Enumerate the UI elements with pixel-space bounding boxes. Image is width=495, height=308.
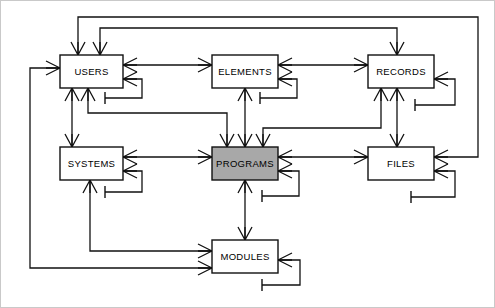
link-users-programs [88,88,227,147]
crowfoot-programs-right-lower [278,164,292,178]
crowfoot-modules-left-upper [198,244,212,258]
crowfoot-systems-bottom [83,180,97,193]
crowfoot-modules-top [238,227,252,240]
crowfoot-modules-right [278,253,292,267]
crowfoot-records-right [434,72,448,86]
crowfoot-systems-top [65,134,79,147]
entity-elements-label: ELEMENTS [218,66,272,77]
crowfoot-records-bottom-left [374,88,388,101]
crowfoot-users-top-left [71,42,85,55]
crowfoot-systems-right-upper [123,150,137,164]
link-records-users [100,28,397,55]
crowfoot-files-left [354,150,368,164]
entity-boxes: USERS ELEMENTS RECORDS SYSTEMS PROGRAMS [60,55,434,273]
crowfoot-files-right-lower [434,164,448,178]
crowfoot-programs-left [198,150,212,164]
entity-programs[interactable]: PROGRAMS [212,147,278,180]
entity-systems[interactable]: SYSTEMS [60,147,123,180]
crowfoot-users-right-lower [123,72,137,86]
diagram-canvas: USERS ELEMENTS RECORDS SYSTEMS PROGRAMS [0,0,495,308]
crowfoot-users-right-upper [123,58,137,72]
crowfoot-users-top-right [93,42,107,55]
entity-users[interactable]: USERS [60,55,123,88]
entity-records[interactable]: RECORDS [368,55,434,88]
entity-files[interactable]: FILES [368,147,434,180]
crowfoot-users-left [46,61,60,75]
crowfoot-records-top [390,42,404,55]
entity-users-label: USERS [74,66,108,77]
entity-relationship-diagram: USERS ELEMENTS RECORDS SYSTEMS PROGRAMS [0,0,495,308]
crowfoot-systems-right-lower [123,164,137,178]
entity-modules[interactable]: MODULES [212,240,278,273]
crowfoot-modules-left-lower [198,261,212,275]
crowfoot-programs-top-middle [238,134,252,147]
entity-modules-label: MODULES [220,251,269,262]
link-systems-modules [90,180,212,251]
entity-elements[interactable]: ELEMENTS [212,55,278,88]
entity-systems-label: SYSTEMS [68,158,116,169]
crowfoot-elements-bottom [238,88,252,101]
crowfoot-records-bottom-right [390,88,404,101]
crowfoot-elements-left [198,58,212,72]
crowfoot-programs-right-upper [278,150,292,164]
entity-records-label: RECORDS [376,66,426,77]
crowfoot-records-left [354,58,368,72]
crowfoot-programs-top-right [256,134,270,147]
entity-files-label: FILES [387,158,415,169]
crowfoot-elements-right-lower [278,72,292,86]
crowfoot-programs-bottom [238,180,252,193]
crowfoot-elements-right-upper [278,58,292,72]
link-records-programs [263,88,381,147]
crowfoot-files-right-upper [434,150,448,164]
crowfoot-users-bottom-right [81,88,95,101]
crowfoot-programs-top-left [220,134,234,147]
entity-programs-label: PROGRAMS [216,158,274,169]
crowfoot-files-top [390,134,404,147]
crowfoot-users-bottom-left [65,88,79,101]
